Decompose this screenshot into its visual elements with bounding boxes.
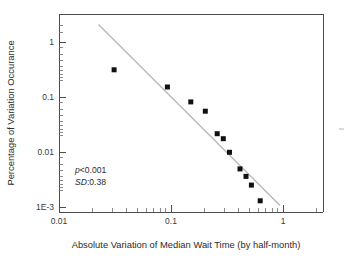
p-rest: <0.001 (80, 165, 107, 175)
data-point (249, 183, 254, 188)
data-point (244, 174, 249, 179)
x-tick-label-0.01: 0.01 (51, 216, 68, 226)
data-point (203, 109, 208, 114)
sd-value-annotation: SD:0.38 (75, 177, 106, 187)
sd-italic: SD (75, 177, 87, 187)
data-point (221, 136, 226, 141)
sd-rest: :0.38 (87, 177, 106, 187)
y-tick-label-1: 1 (49, 37, 54, 47)
scatter-plot-svg: 1 0.1 0.01 1E-3 0.01 0.1 1 Absolute Vari… (0, 0, 346, 266)
y-tick-label-1e-3: 1E-3 (36, 202, 54, 212)
data-point (112, 67, 117, 72)
y-tick-label-0.1: 0.1 (42, 92, 54, 102)
scan-edge-artifact (339, 128, 344, 130)
data-point (188, 99, 193, 104)
x-tick-label-1: 1 (281, 216, 286, 226)
chart-figure: 1 0.1 0.01 1E-3 0.01 0.1 1 Absolute Vari… (0, 0, 346, 266)
data-point (238, 166, 243, 171)
y-tick-label-0.01: 0.01 (37, 147, 54, 157)
x-tick-label-0.1: 0.1 (165, 216, 177, 226)
data-point (215, 131, 220, 136)
p-value-annotation: p<0.001 (74, 165, 107, 175)
data-point (227, 150, 232, 155)
y-axis-title: Percentage of Variation Occurance (5, 40, 16, 185)
data-point (258, 198, 263, 203)
data-point (165, 85, 170, 90)
x-axis-title: Absolute Variation of Median Wait Time (… (72, 239, 301, 250)
